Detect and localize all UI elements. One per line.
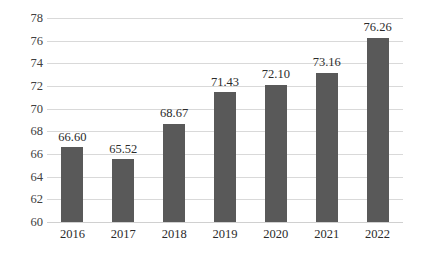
y-axis-label: 72: [9, 80, 43, 93]
bar-group: 68.67: [149, 18, 200, 222]
x-axis-label: 2018: [162, 228, 187, 241]
bar[interactable]: [112, 159, 134, 222]
bar-group: 76.26: [352, 18, 403, 222]
x-axis-label: 2021: [314, 228, 339, 241]
y-axis-label: 60: [9, 216, 43, 229]
bar[interactable]: [367, 38, 389, 222]
bar-value-label: 68.67: [160, 107, 188, 120]
bar-value-label: 71.43: [211, 76, 239, 89]
bar[interactable]: [265, 85, 287, 222]
y-axis-label: 70: [9, 102, 43, 115]
x-axis-label: 2022: [365, 228, 390, 241]
bar-value-label: 76.26: [364, 21, 392, 34]
bar[interactable]: [214, 92, 236, 222]
bar-group: 66.60: [47, 18, 98, 222]
bar[interactable]: [61, 147, 83, 222]
x-axis-label: 2016: [60, 228, 85, 241]
bar-group: 72.10: [250, 18, 301, 222]
y-axis-label: 76: [9, 34, 43, 47]
bar-value-label: 66.60: [58, 131, 86, 144]
y-axis-label: 62: [9, 193, 43, 206]
bar-chart: 66.6065.5268.6771.4372.1073.1676.26 7876…: [0, 0, 426, 261]
bar-series: 66.6065.5268.6771.4372.1073.1676.26: [47, 18, 403, 222]
x-axis-label: 2019: [213, 228, 238, 241]
bar[interactable]: [163, 124, 185, 222]
bar-value-label: 65.52: [109, 143, 137, 156]
gridline: [47, 222, 403, 223]
bar-group: 73.16: [301, 18, 352, 222]
bar-value-label: 72.10: [262, 68, 290, 81]
plot-area: 66.6065.5268.6771.4372.1073.1676.26: [47, 18, 403, 222]
y-axis-label: 66: [9, 148, 43, 161]
y-axis-label: 64: [9, 170, 43, 183]
bar-value-label: 73.16: [313, 56, 341, 69]
x-axis-label: 2017: [111, 228, 136, 241]
bar-group: 71.43: [200, 18, 251, 222]
y-axis-label: 74: [9, 57, 43, 70]
bar[interactable]: [316, 73, 338, 222]
y-axis-label: 78: [9, 12, 43, 25]
y-axis-label: 68: [9, 125, 43, 138]
bar-group: 65.52: [98, 18, 149, 222]
x-axis-label: 2020: [263, 228, 288, 241]
